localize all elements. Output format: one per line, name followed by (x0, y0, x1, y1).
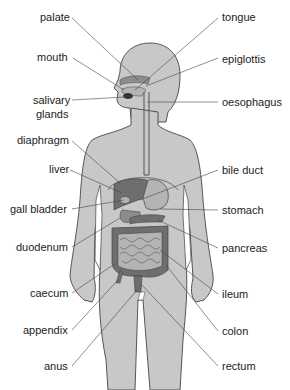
rectum-shape (134, 276, 142, 292)
label-mouth: mouth (37, 51, 68, 63)
label-gall-bladder: gall bladder (10, 203, 67, 215)
gall-bladder-shape (120, 197, 130, 204)
label-appendix: appendix (23, 324, 68, 336)
label-diaphragm: diaphragm (17, 134, 69, 146)
label-oesophagus: oesophagus (222, 96, 282, 108)
label-ileum: ileum (222, 288, 248, 300)
label-salivary: salivary (33, 94, 70, 106)
label-colon: colon (222, 325, 248, 337)
label-pancreas: pancreas (222, 242, 267, 254)
label-rectum: rectum (222, 360, 256, 372)
label-palate: palate (40, 11, 70, 23)
label-epiglottis: epiglottis (222, 53, 265, 65)
label-stomach: stomach (222, 204, 264, 216)
label-anus: anus (44, 360, 68, 372)
label-bile-duct: bile duct (222, 164, 263, 176)
label-tongue: tongue (222, 11, 256, 23)
salivary-glands-shape (123, 93, 133, 99)
label-caecum: caecum (30, 287, 69, 299)
label-duodenum: duodenum (16, 241, 68, 253)
label-glands: glands (36, 108, 68, 120)
label-liver: liver (49, 163, 69, 175)
